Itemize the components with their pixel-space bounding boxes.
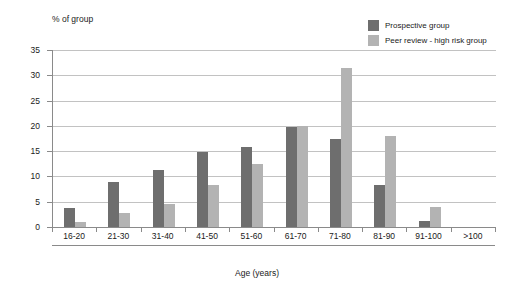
x-tick-mark xyxy=(495,227,496,232)
bar xyxy=(241,147,252,227)
bar xyxy=(385,136,396,227)
y-tick-label: 5 xyxy=(18,197,40,207)
bar xyxy=(64,208,75,227)
x-tick-label: 81-90 xyxy=(362,231,406,241)
bar-group xyxy=(407,50,451,227)
x-tick-label: 61-70 xyxy=(273,231,317,241)
bar-group xyxy=(274,50,318,227)
bar xyxy=(374,185,385,227)
legend-item-peer-review-high-risk-group: Peer review - high risk group xyxy=(368,35,487,46)
y-tick-mark xyxy=(47,176,52,177)
y-tick-mark xyxy=(47,202,52,203)
x-tick-label: 16-20 xyxy=(52,231,96,241)
y-axis-title: % of group xyxy=(52,14,93,24)
y-tick-label: 20 xyxy=(18,121,40,131)
y-tick-label: 25 xyxy=(18,96,40,106)
bar-series-container xyxy=(53,50,496,227)
y-tick-label: 30 xyxy=(18,70,40,80)
x-tick-label: 51-60 xyxy=(229,231,273,241)
legend-label-peer-review-high-risk-group: Peer review - high risk group xyxy=(385,36,487,45)
x-tick-label: 31-40 xyxy=(141,231,185,241)
x-axis-title: Age (years) xyxy=(0,268,514,278)
bar xyxy=(341,68,352,227)
legend-item-prospective-group: Prospective group xyxy=(368,20,487,31)
bar xyxy=(197,152,208,227)
bar xyxy=(286,127,297,227)
bar xyxy=(108,182,119,228)
legend-swatch-prospective-group xyxy=(368,20,379,31)
bar xyxy=(164,204,175,227)
bar-group xyxy=(186,50,230,227)
bar-group xyxy=(97,50,141,227)
x-tick-label: >100 xyxy=(451,231,495,241)
y-tick-mark xyxy=(47,101,52,102)
x-tick-label: 41-50 xyxy=(185,231,229,241)
bar xyxy=(330,139,341,228)
bar-chart: % of group Prospective group Peer review… xyxy=(0,0,514,294)
y-tick-label: 0 xyxy=(18,222,40,232)
y-tick-mark xyxy=(47,75,52,76)
bar xyxy=(119,213,130,227)
y-tick-mark xyxy=(47,50,52,51)
x-axis-labels: 16-2021-3031-4041-5051-6061-7071-8081-90… xyxy=(52,231,495,241)
bar xyxy=(430,207,441,227)
y-tick-mark xyxy=(47,151,52,152)
legend-swatch-peer-review-high-risk-group xyxy=(368,35,379,46)
x-tick-label: 21-30 xyxy=(96,231,140,241)
x-tick-label: 91-100 xyxy=(406,231,450,241)
y-tick-mark xyxy=(47,126,52,127)
bar-group xyxy=(230,50,274,227)
plot-area xyxy=(52,50,496,228)
bar-group xyxy=(53,50,97,227)
bar-group xyxy=(363,50,407,227)
chart-legend: Prospective group Peer review - high ris… xyxy=(368,20,487,46)
y-tick-label: 35 xyxy=(18,45,40,55)
legend-label-prospective-group: Prospective group xyxy=(385,21,449,30)
bar xyxy=(208,185,219,227)
bar xyxy=(252,164,263,227)
bar-group xyxy=(142,50,186,227)
y-tick-label: 10 xyxy=(18,171,40,181)
y-tick-label: 15 xyxy=(18,146,40,156)
bar-group xyxy=(319,50,363,227)
bar xyxy=(297,126,308,227)
bar xyxy=(153,170,164,227)
bar-group xyxy=(452,50,496,227)
x-axis-baseline xyxy=(52,245,495,246)
x-tick-label: 71-80 xyxy=(318,231,362,241)
